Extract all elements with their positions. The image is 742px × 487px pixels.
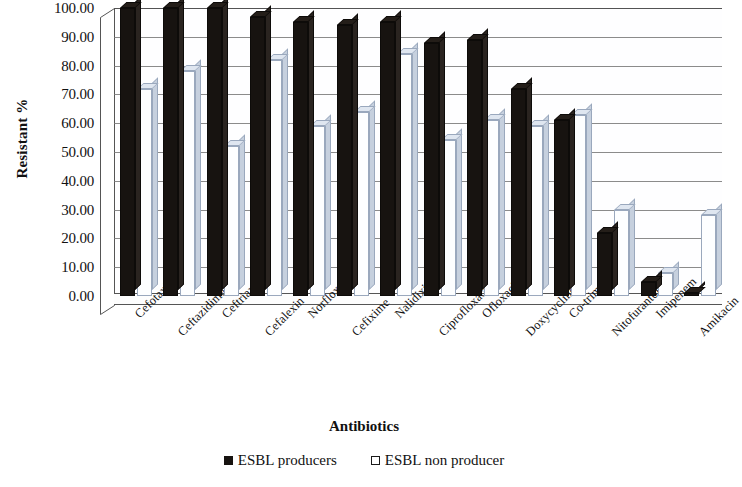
bar-side-face: [543, 114, 549, 290]
bar-series-container: [114, 8, 722, 296]
x-axis-tick-labels: CefotaximeCeftazidimeCeftriaxoneCefalexi…: [100, 305, 728, 415]
bar-side-face: [308, 11, 314, 290]
x-axis-title: Antibiotics: [0, 418, 728, 435]
bar-side-face: [412, 42, 418, 290]
bar-side-face: [499, 109, 505, 290]
plot-left-wall: [100, 8, 115, 314]
bar-esbl-producers[interactable]: [597, 233, 612, 296]
y-tick-20: 20.00: [18, 231, 94, 246]
bar-esbl-producers[interactable]: [250, 17, 265, 296]
legend-label: ESBL producers: [238, 452, 337, 469]
bar-group: [331, 8, 374, 296]
bar-group: [418, 8, 461, 296]
bar-side-face: [352, 13, 358, 290]
bar-side-face: [222, 0, 228, 290]
bar-group: [244, 8, 287, 296]
y-axis-tick-labels: 100.0090.0080.0070.0060.0050.0040.0030.0…: [18, 0, 94, 300]
bar-front-face: [467, 40, 482, 296]
bar-esbl-producers[interactable]: [467, 40, 482, 296]
bar-group: [114, 8, 157, 296]
bar-side-face: [265, 5, 271, 290]
bar-esbl-producers[interactable]: [207, 8, 222, 296]
bar-esbl-producers[interactable]: [380, 22, 395, 296]
y-tick-30: 30.00: [18, 203, 94, 218]
bar-side-face: [716, 204, 722, 290]
bar-esbl-producers[interactable]: [293, 22, 308, 296]
bar-group: [679, 8, 722, 296]
bar-front-face: [380, 22, 395, 296]
y-tick-80: 80.00: [18, 59, 94, 74]
bar-group: [592, 8, 635, 296]
bar-front-face: [511, 89, 526, 296]
bar-side-face: [482, 28, 488, 290]
bar-side-face: [239, 134, 245, 290]
legend-filled-square-icon: [224, 456, 233, 465]
bar-front-face: [641, 282, 656, 296]
bar-front-face: [250, 17, 265, 296]
bar-front-face: [163, 8, 178, 296]
bar-front-face: [207, 8, 222, 296]
bar-esbl-producers[interactable]: [424, 43, 439, 296]
y-tick-70: 70.00: [18, 87, 94, 102]
bar-front-face: [554, 120, 569, 296]
bar-group: [375, 8, 418, 296]
y-tick-40: 40.00: [18, 174, 94, 189]
bar-front-face: [424, 43, 439, 296]
bar-esbl-producers[interactable]: [337, 25, 352, 296]
bar-front-face: [597, 233, 612, 296]
legend-hollow-square-icon: [371, 456, 380, 465]
bar-side-face: [439, 31, 445, 290]
y-tick-10: 10.00: [18, 260, 94, 275]
bar-esbl-producers[interactable]: [684, 293, 699, 296]
y-tick-100: 100.00: [18, 1, 94, 16]
bar-side-face: [195, 60, 201, 290]
bar-esbl-producers[interactable]: [163, 8, 178, 296]
bar-esbl-producers[interactable]: [641, 282, 656, 296]
bar-group: [635, 8, 678, 296]
bar-esbl-producers[interactable]: [120, 8, 135, 296]
bar-side-face: [325, 114, 331, 290]
bar-front-face: [337, 25, 352, 296]
bar-side-face: [586, 103, 592, 290]
bar-side-face: [456, 129, 462, 290]
bar-group: [288, 8, 331, 296]
y-tick-0: 0.00: [18, 289, 94, 304]
bar-esbl-producers[interactable]: [511, 89, 526, 296]
bar-group: [157, 8, 200, 296]
legend-item[interactable]: ESBL producers: [224, 452, 337, 469]
bar-side-face: [178, 0, 184, 290]
bar-side-face: [152, 77, 158, 290]
bar-group: [461, 8, 504, 296]
bar-side-face: [569, 109, 575, 290]
bar-front-face: [684, 293, 699, 296]
y-tick-60: 60.00: [18, 116, 94, 131]
bar-group: [505, 8, 548, 296]
bar-esbl-producers[interactable]: [554, 120, 569, 296]
chart-legend: ESBL producersESBL non producer: [0, 452, 728, 469]
bar-side-face: [282, 48, 288, 290]
bar-front-face: [293, 22, 308, 296]
bar-group: [201, 8, 244, 296]
legend-label: ESBL non producer: [385, 452, 504, 469]
bar-side-face: [526, 77, 532, 290]
bar-side-face: [135, 0, 141, 290]
bar-side-face: [395, 11, 401, 290]
bar-side-face: [369, 100, 375, 290]
y-tick-90: 90.00: [18, 30, 94, 45]
legend-item[interactable]: ESBL non producer: [371, 452, 504, 469]
plot-area: [100, 8, 722, 305]
bar-front-face: [120, 8, 135, 296]
bar-group: [548, 8, 591, 296]
y-tick-50: 50.00: [18, 145, 94, 160]
bar-side-face: [629, 198, 635, 290]
